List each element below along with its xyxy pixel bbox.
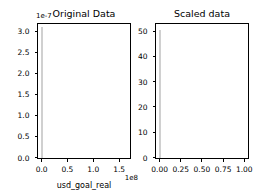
subplot-original-data: Original Data 1e-7 1e8 usd_goal_real 0.0… bbox=[37, 23, 131, 159]
y-axis-tick-label: 2.0 bbox=[18, 69, 30, 78]
y-axis-tick: 1.5 bbox=[35, 94, 39, 95]
x-axis-tick-label: 1.0 bbox=[87, 165, 99, 174]
y-axis-tick-label: 0.5 bbox=[18, 132, 30, 141]
y-axis-tick: 10 bbox=[153, 132, 157, 133]
subplot-title-original: Original Data bbox=[38, 8, 130, 19]
x-axis-tick-label: 0.0 bbox=[36, 165, 48, 174]
x-axis-tick: 0.00 bbox=[159, 158, 160, 162]
y-axis-tick-label: 1.5 bbox=[18, 90, 30, 99]
y-axis-tick: 40 bbox=[153, 56, 157, 57]
subplot-title-scaled: Scaled data bbox=[156, 8, 248, 19]
y-axis-tick: 2.0 bbox=[35, 73, 39, 74]
x-axis-tick: 0.0 bbox=[41, 158, 42, 162]
x-axis-tick: 1.00 bbox=[244, 158, 245, 162]
y-axis-tick: 50 bbox=[153, 31, 157, 32]
y-axis-tick: 30 bbox=[153, 81, 157, 82]
y-axis-tick: 2.5 bbox=[35, 52, 39, 53]
x-axis-tick-label: 0.50 bbox=[194, 165, 211, 174]
y-axis-tick: 20 bbox=[153, 106, 157, 107]
x-axis-tick: 1.5 bbox=[119, 158, 120, 162]
y-axis-tick: 3.0 bbox=[35, 31, 39, 32]
x-axis-tick-label: 0.75 bbox=[215, 165, 232, 174]
y-axis-tick-label: 30 bbox=[138, 77, 148, 86]
y-axis-tick: 0 bbox=[153, 157, 157, 158]
subplot-scaled-data: Scaled data 010203040500.000.250.500.751… bbox=[155, 23, 249, 159]
y-axis-offset-text-original: 1e-7 bbox=[36, 12, 52, 20]
x-axis-tick: 0.25 bbox=[180, 158, 181, 162]
y-axis-tick-label: 10 bbox=[138, 128, 148, 137]
y-axis-tick: 0.5 bbox=[35, 136, 39, 137]
y-axis-tick: 0.0 bbox=[35, 157, 39, 158]
y-axis-tick-label: 3.0 bbox=[18, 27, 30, 36]
matplotlib-figure: Original Data 1e-7 1e8 usd_goal_real 0.0… bbox=[0, 0, 272, 196]
x-axis-tick: 0.75 bbox=[223, 158, 224, 162]
y-axis-tick-label: 0.0 bbox=[18, 153, 30, 162]
y-axis-tick-label: 50 bbox=[138, 27, 148, 36]
histogram-bar bbox=[41, 27, 43, 158]
x-axis-tick-label: 0.25 bbox=[172, 165, 189, 174]
y-axis-tick-label: 0 bbox=[143, 153, 148, 162]
y-axis-tick-label: 40 bbox=[138, 52, 148, 61]
y-axis-tick-label: 20 bbox=[138, 102, 148, 111]
x-axis-tick: 0.50 bbox=[201, 158, 202, 162]
x-axis-tick-label: 1.5 bbox=[113, 165, 125, 174]
x-axis-tick-label: 0.5 bbox=[61, 165, 73, 174]
y-axis-tick-label: 2.5 bbox=[18, 48, 30, 57]
histogram-bar bbox=[159, 30, 161, 158]
y-axis-tick: 1.0 bbox=[35, 115, 39, 116]
x-axis-tick: 0.5 bbox=[67, 158, 68, 162]
x-axis-tick: 1.0 bbox=[93, 158, 94, 162]
y-axis-tick-label: 1.0 bbox=[18, 111, 30, 120]
x-axis-tick-label: 0.00 bbox=[151, 165, 168, 174]
x-axis-tick-label: 1.00 bbox=[236, 165, 253, 174]
x-axis-label-original: usd_goal_real bbox=[38, 181, 130, 190]
